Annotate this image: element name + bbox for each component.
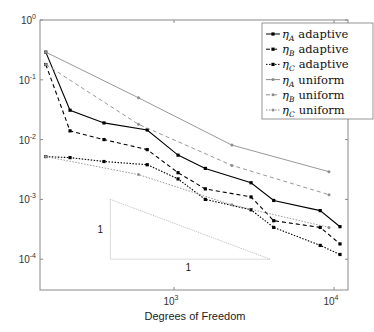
x-tick-label: 103: [163, 294, 178, 307]
data-point: [44, 63, 47, 66]
data-point: [137, 123, 140, 126]
data-point: [272, 226, 275, 229]
data-point: [338, 242, 341, 245]
data-point: [102, 160, 105, 163]
data-point: [230, 144, 233, 147]
data-point: [204, 187, 207, 190]
data-point: [137, 96, 140, 99]
convergence-chart: 11 10010-110-210-310-4103104 ηAadaptiveη…: [0, 0, 374, 332]
data-point: [272, 199, 275, 202]
series-uniform-c: [44, 155, 330, 229]
data-point: [338, 225, 341, 228]
y-tick-label: 10-4: [19, 252, 36, 265]
data-point: [204, 167, 207, 170]
data-point: [319, 244, 322, 247]
data-point: [44, 51, 47, 54]
data-point: [44, 155, 47, 158]
data-point: [319, 209, 322, 212]
data-point: [272, 219, 275, 222]
data-point: [68, 156, 71, 159]
data-point: [102, 138, 105, 141]
data-point: [176, 171, 179, 174]
data-point: [338, 253, 341, 256]
legend: ηAadaptiveηBadaptiveηCadaptiveηAuniformη…: [262, 23, 373, 119]
data-point: [230, 164, 233, 167]
data-point: [102, 121, 105, 124]
data-point: [137, 173, 140, 176]
data-point: [146, 148, 149, 151]
slope-triangle-vertical-label: 1: [98, 224, 104, 235]
data-point: [230, 203, 233, 206]
data-point: [176, 177, 179, 180]
data-point: [68, 109, 71, 112]
slope-triangle-horizontal-label: 1: [186, 262, 192, 273]
y-tick-label: 10-3: [19, 192, 36, 205]
data-point: [68, 129, 71, 132]
data-point: [327, 193, 330, 196]
data-point: [327, 170, 330, 173]
x-tick-label: 104: [323, 294, 338, 307]
data-point: [204, 198, 207, 201]
legend-marker: [271, 48, 274, 51]
legend-marker: [272, 109, 275, 112]
legend-marker: [271, 63, 274, 66]
data-point: [146, 163, 149, 166]
data-point: [249, 195, 252, 198]
data-point: [327, 226, 330, 229]
y-tick-label: 10-2: [19, 133, 36, 146]
x-axis-label: Degrees of Freedom: [145, 310, 246, 322]
legend-marker: [272, 78, 275, 81]
series-line: [46, 157, 329, 228]
y-tick-label: 10-1: [19, 73, 36, 86]
legend-marker: [272, 93, 275, 96]
data-point: [319, 226, 322, 229]
legend-marker: [271, 32, 274, 35]
y-tick-label: 100: [21, 13, 36, 26]
slope-triangle: 11: [98, 199, 271, 273]
data-point: [249, 181, 252, 184]
data-point: [176, 154, 179, 157]
